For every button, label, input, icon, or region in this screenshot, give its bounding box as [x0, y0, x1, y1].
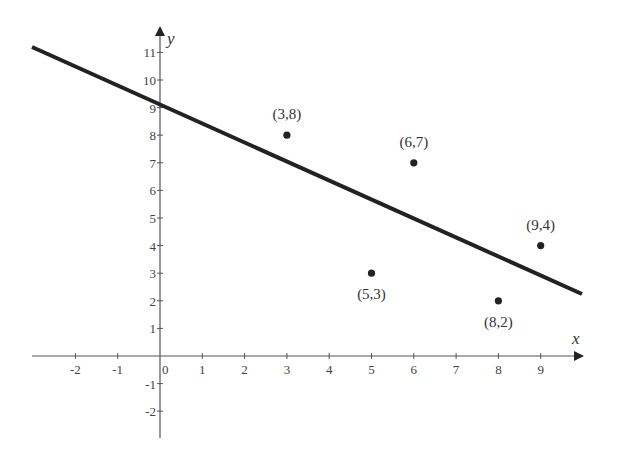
y-tick-label: 3: [150, 266, 157, 281]
data-point: [410, 159, 417, 166]
origin-label: 0: [162, 362, 169, 377]
chart-canvas: xy -2-101234567891110987654321-1-2 (3,8)…: [0, 0, 617, 459]
x-tick-label: 8: [495, 362, 502, 377]
data-point: [368, 270, 375, 277]
y-tick-label: 8: [150, 128, 157, 143]
ticks: -2-101234567891110987654321-1-2: [70, 45, 544, 419]
y-tick-label: 7: [150, 156, 157, 171]
x-tick-label: 3: [284, 362, 291, 377]
x-tick-label: 6: [411, 362, 418, 377]
x-tick-label: 1: [199, 362, 206, 377]
y-tick-label: 5: [150, 211, 157, 226]
y-tick-label: 6: [150, 183, 157, 198]
x-tick-label: -1: [112, 362, 123, 377]
x-axis-title: x: [571, 329, 580, 348]
y-tick-label: 11: [143, 45, 156, 60]
y-axis-arrow-icon: [155, 26, 165, 36]
y-tick-label: -1: [145, 377, 156, 392]
x-tick-label: -2: [70, 362, 81, 377]
y-tick-label: 10: [143, 73, 156, 88]
y-tick-label: 4: [150, 239, 157, 254]
data-point: [537, 242, 544, 249]
point-label: (5,3): [357, 286, 386, 303]
regression-line: [32, 47, 582, 294]
fit-line: [32, 47, 582, 294]
point-label: (9,4): [526, 217, 555, 234]
x-axis-arrow-icon: [574, 351, 584, 361]
data-point: [495, 297, 502, 304]
x-tick-label: 5: [368, 362, 375, 377]
data-point: [283, 132, 290, 139]
y-tick-label: -2: [145, 404, 156, 419]
y-tick-label: 2: [150, 294, 157, 309]
x-tick-label: 4: [326, 362, 333, 377]
point-label: (8,2): [484, 314, 513, 331]
point-label: (3,8): [273, 106, 302, 123]
point-label: (6,7): [399, 134, 428, 151]
y-axis-title: y: [165, 29, 175, 48]
x-tick-label: 7: [453, 362, 460, 377]
y-tick-label: 1: [150, 321, 157, 336]
x-tick-label: 9: [537, 362, 544, 377]
x-tick-label: 2: [241, 362, 248, 377]
